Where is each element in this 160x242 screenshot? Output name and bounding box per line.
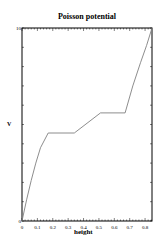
x-tick-label: 0.8 <box>142 225 149 230</box>
x-tick-label: 0.4 <box>80 225 87 230</box>
x-tick-label: 0 <box>21 225 24 230</box>
y-tick-label: 0 <box>19 219 22 224</box>
data-line <box>22 28 152 221</box>
x-tick-label: 0.5 <box>96 225 103 230</box>
y-tick-label: 10 <box>16 26 22 31</box>
x-tick-label: 0.1 <box>34 225 41 230</box>
x-tick-label: 0.2 <box>50 225 57 230</box>
plot-frame <box>22 28 152 221</box>
x-tick-label: 0.3 <box>65 225 72 230</box>
x-tick-label: 0.7 <box>127 225 134 230</box>
x-tick-label: 0.6 <box>111 225 118 230</box>
plot-area: 00.10.20.30.40.50.60.70.8010 <box>0 0 160 242</box>
